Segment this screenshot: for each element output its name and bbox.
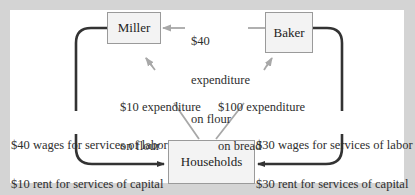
miller-to-households-label: $40 wages for services of labor $10 rent… xyxy=(11,113,168,195)
baker-label: Baker xyxy=(273,25,304,41)
baker-node: Baker xyxy=(265,12,313,53)
miller-label: Miller xyxy=(118,20,151,36)
baker-to-households-label: $30 wages for services of labor $30 rent… xyxy=(256,113,413,195)
miller-node: Miller xyxy=(107,12,161,44)
